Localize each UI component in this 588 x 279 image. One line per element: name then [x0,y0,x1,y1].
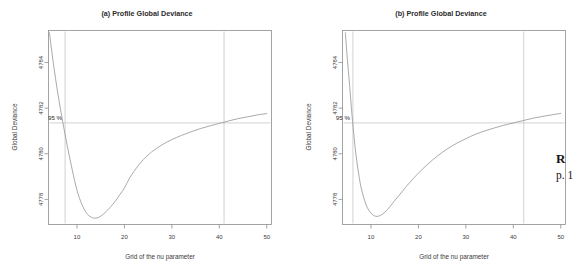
y-axis-label-b: Global Deviance [305,103,312,150]
y-tickmarks-a [45,62,49,199]
deviance-plot-b: (b) Profile Global Deviance 477847804782… [294,0,588,279]
x-tick-label: 30 [169,234,176,240]
y-tick-label: 4784 [39,55,45,69]
x-tick-label: 50 [263,234,270,240]
deviance-curve-b [345,33,560,217]
x-tick-label: 20 [415,234,422,240]
plot-title-b: (b) Profile Global Deviance [395,9,486,18]
x-tick-label: 50 [557,234,564,240]
x-axis-label-a: Grid of the nu parameter [125,253,195,261]
chart-panel-b: (b) Profile Global Deviance 477847804782… [294,0,588,279]
x-axis-label-b: Grid of the nu parameter [419,253,489,261]
deviance-plot-a: (a) Profile Global Deviance 477847804782… [0,0,294,279]
y-tick-label: 4782 [333,101,339,115]
y-tickmarks-b [339,62,343,199]
x-tick-label: 40 [216,234,223,240]
y-tick-label: 4780 [39,146,45,160]
margin-note: R p. 1 [556,150,573,183]
plot-frame-a [49,31,272,225]
x-tick-label: 10 [368,234,375,240]
x-axis-a: 1020304050 Grid of the nu parameter [74,225,271,262]
y-tick-label: 4782 [39,101,45,115]
x-tick-label: 10 [74,234,81,240]
y-ticklabels-b: 4778478047824784 [333,55,339,206]
ci-level-label-b: 95 % [336,114,351,121]
chart-panel-a: (a) Profile Global Deviance 477847804782… [0,0,294,279]
y-tick-label: 4784 [333,55,339,69]
y-tick-label: 4780 [333,146,339,160]
x-tickmarks-b [371,225,561,229]
x-ticklabels-a: 1020304050 [74,234,271,240]
deviance-curve-a [49,33,266,218]
y-axis-label-a: Global Deviance [11,103,18,150]
y-tick-label: 4778 [39,192,45,206]
ci-lines-a [50,32,271,224]
y-axis-a: 4778478047824784 Global Deviance [11,55,49,206]
margin-note-line-2: p. 1 [556,168,573,184]
figure-page: (a) Profile Global Deviance 477847804782… [0,0,588,279]
plot-title-a: (a) Profile Global Deviance [101,9,192,18]
x-tick-label: 40 [510,234,517,240]
ci-lines-b [344,32,565,224]
x-tickmarks-a [77,225,267,229]
y-ticklabels-a: 4778478047824784 [39,55,45,206]
ci-level-label-a: 95 % [48,114,63,121]
plot-frame-b [343,31,566,225]
x-axis-b: 1020304050 Grid of the nu parameter [368,225,565,262]
y-axis-b: 4778478047824784 Global Deviance [305,55,343,206]
x-ticklabels-b: 1020304050 [368,234,565,240]
margin-note-line-1: R [556,150,573,168]
x-tick-label: 20 [121,234,128,240]
y-tick-label: 4778 [333,192,339,206]
x-tick-label: 30 [463,234,470,240]
